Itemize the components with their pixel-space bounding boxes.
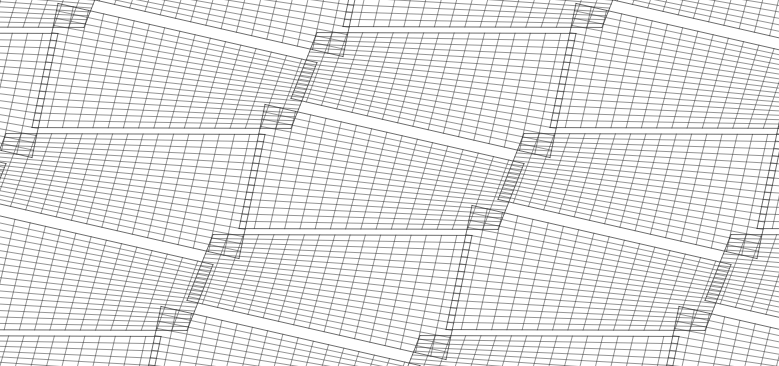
hypar-figure-root bbox=[0, 0, 779, 366]
hypar-wireframe-canvas bbox=[0, 0, 779, 366]
